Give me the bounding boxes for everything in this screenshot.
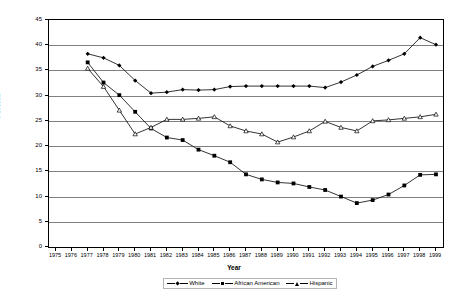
legend-label: White — [189, 280, 204, 287]
x-axis-tick-mark — [118, 248, 119, 251]
data-point — [402, 184, 406, 188]
data-point — [387, 193, 391, 197]
x-axis-tick-mark — [55, 248, 56, 251]
data-point — [86, 60, 90, 64]
data-point — [292, 182, 296, 186]
data-point — [291, 84, 295, 88]
x-axis-tick-mark — [356, 248, 357, 251]
legend-label: Hispanic — [309, 280, 332, 287]
legend-entry-white: White — [167, 280, 205, 287]
legend-line-icon — [167, 283, 175, 284]
x-axis-tick-mark — [245, 248, 246, 251]
x-axis-tick-mark — [293, 248, 294, 251]
data-point — [228, 124, 232, 128]
legend-line-icon — [286, 283, 294, 284]
y-axis-tick-label: 10 — [24, 193, 42, 199]
data-point — [165, 136, 169, 140]
y-axis-tick-label: 25 — [24, 117, 42, 123]
data-point — [260, 178, 264, 182]
legend-marker-icon — [175, 281, 180, 286]
x-axis-tick-mark — [308, 248, 309, 251]
chart-legend: WhiteAfrican AmericanHispanic — [163, 278, 337, 289]
data-point — [434, 43, 438, 47]
data-point — [386, 58, 390, 62]
x-axis-tick-mark — [419, 248, 420, 251]
x-axis-tick-mark — [150, 248, 151, 251]
data-point — [323, 119, 327, 123]
y-axis-tick-label: 15 — [24, 167, 42, 173]
y-axis-tick-label: 0 — [24, 243, 42, 249]
x-axis-tick-mark — [71, 248, 72, 251]
data-point — [307, 84, 311, 88]
data-point — [434, 112, 438, 116]
data-point — [181, 88, 185, 92]
data-point — [85, 66, 89, 70]
data-point — [307, 129, 311, 133]
data-point — [244, 84, 248, 88]
x-axis-tick-mark — [166, 248, 167, 251]
series-hispanic — [85, 66, 438, 144]
data-point — [244, 172, 248, 176]
x-axis-tick-mark — [87, 248, 88, 251]
legend-label: African American — [234, 280, 279, 287]
legend-entry-hispanic: Hispanic — [286, 280, 332, 287]
data-point — [133, 110, 137, 114]
x-axis-tick-mark — [182, 248, 183, 251]
data-point — [276, 181, 280, 185]
x-axis-tick-mark — [324, 248, 325, 251]
x-axis-tick-mark — [198, 248, 199, 251]
y-axis-tick-label: 40 — [24, 41, 42, 47]
data-point — [260, 84, 264, 88]
x-axis-title: Year — [0, 264, 468, 271]
data-point — [355, 73, 359, 77]
legend-marker-icon — [221, 282, 225, 286]
y-axis-tick-label: 5 — [24, 218, 42, 224]
x-axis-tick-mark — [229, 248, 230, 251]
data-point — [165, 90, 169, 94]
line-chart: Percent 051015202530354045 1975197619771… — [0, 0, 468, 300]
y-axis-tick-label: 45 — [24, 16, 42, 22]
x-axis-tick-mark — [372, 248, 373, 251]
data-point — [371, 64, 375, 68]
data-point — [371, 198, 375, 202]
legend-marker-icon — [295, 282, 299, 286]
series-white — [86, 36, 439, 96]
y-axis-tick-label: 20 — [24, 142, 42, 148]
data-point — [307, 185, 311, 189]
x-axis-tick-mark — [277, 248, 278, 251]
data-point — [86, 52, 90, 56]
data-point — [276, 84, 280, 88]
x-axis-tick-mark — [340, 248, 341, 251]
series-line — [88, 68, 436, 142]
legend-line-icon — [180, 283, 188, 284]
x-axis-tick-mark — [388, 248, 389, 251]
x-axis-tick-mark — [213, 248, 214, 251]
data-point — [197, 148, 201, 152]
data-point — [228, 84, 232, 88]
y-axis-title: Percent — [0, 94, 1, 118]
x-axis-tick-mark — [403, 248, 404, 251]
data-series-layer — [49, 20, 443, 247]
legend-entry-african-american: African American — [212, 280, 280, 287]
legend-line-icon — [300, 283, 308, 284]
data-point — [212, 88, 216, 92]
data-point — [323, 86, 327, 90]
data-point — [196, 88, 200, 92]
data-point — [228, 160, 232, 164]
x-axis-tick-mark — [435, 248, 436, 251]
data-point — [101, 56, 105, 60]
x-axis-tick-mark — [261, 248, 262, 251]
data-point — [181, 138, 185, 142]
x-axis-tick-mark — [134, 248, 135, 251]
data-point — [339, 80, 343, 84]
x-axis-tick-label: 1999 — [426, 252, 444, 258]
data-point — [418, 173, 422, 177]
data-point — [117, 93, 121, 97]
y-axis-tick-label: 35 — [24, 66, 42, 72]
data-point — [355, 201, 359, 205]
data-point — [323, 188, 327, 192]
x-axis-tick-mark — [103, 248, 104, 251]
legend-line-icon — [225, 283, 233, 284]
data-point — [339, 195, 343, 199]
data-point — [434, 172, 438, 176]
